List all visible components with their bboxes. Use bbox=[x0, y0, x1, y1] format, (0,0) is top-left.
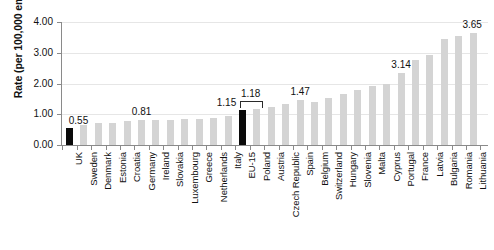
bar-hungary[interactable] bbox=[340, 94, 347, 145]
bar-luxembourg[interactable] bbox=[181, 119, 188, 145]
x-tick-mark bbox=[149, 146, 150, 150]
x-label-malta: Malta bbox=[376, 152, 387, 175]
x-label-germany: Germany bbox=[146, 152, 157, 190]
value-label-spain: 1.47 bbox=[286, 86, 314, 97]
x-label-netherlands: Netherlands bbox=[218, 152, 229, 202]
x-label-austria: Austria bbox=[275, 152, 286, 181]
x-tick-mark bbox=[379, 146, 380, 150]
x-label-czech-republic: Czech Republic bbox=[290, 152, 301, 217]
bar-germany[interactable] bbox=[138, 120, 145, 145]
x-label-bulgaria: Bulgaria bbox=[448, 152, 459, 186]
x-tick-mark bbox=[106, 146, 107, 150]
x-label-luxembourg: Luxembourg bbox=[189, 152, 200, 204]
x-tick-mark bbox=[178, 146, 179, 150]
bar-czech-republic[interactable] bbox=[282, 104, 289, 145]
x-tick-mark bbox=[134, 146, 135, 150]
bar-sweden[interactable] bbox=[80, 125, 87, 145]
x-label-hungary: Hungary bbox=[347, 152, 358, 187]
x-label-portugal: Portugal bbox=[405, 152, 416, 187]
bar-bulgaria[interactable] bbox=[441, 39, 448, 145]
x-tick-mark bbox=[264, 146, 265, 150]
x-tick-mark bbox=[192, 146, 193, 150]
bar-ireland[interactable] bbox=[152, 120, 159, 145]
x-label-poland: Poland bbox=[261, 152, 272, 181]
x-tick-mark bbox=[452, 146, 453, 150]
bar-eu-15[interactable] bbox=[239, 110, 246, 145]
x-tick-mark bbox=[408, 146, 409, 150]
x-label-slovenia: Slovenia bbox=[362, 152, 373, 188]
x-label-belgium: Belgium bbox=[319, 152, 330, 186]
bar-portugal[interactable] bbox=[398, 73, 405, 145]
x-label-lithuania: Lithuania bbox=[477, 152, 488, 190]
bar-malta[interactable] bbox=[369, 86, 376, 145]
x-tick-mark bbox=[423, 146, 424, 150]
bar-austria[interactable] bbox=[268, 107, 275, 145]
value-label-germany: 0.81 bbox=[128, 106, 156, 117]
x-tick-mark bbox=[365, 146, 366, 150]
x-label-eu-15: EU-15 bbox=[246, 152, 257, 178]
x-label-italy: Italy bbox=[232, 152, 243, 169]
x-label-switzerland: Switzerland bbox=[333, 152, 344, 200]
bar-poland[interactable] bbox=[253, 109, 260, 145]
bar-italy[interactable] bbox=[225, 116, 232, 145]
x-label-croatia: Croatia bbox=[131, 152, 142, 182]
bar-netherlands[interactable] bbox=[210, 118, 217, 145]
value-label-lithuania: 3.65 bbox=[458, 19, 486, 30]
value-label-portugal: 3.14 bbox=[387, 59, 415, 70]
x-label-latvia: Latvia bbox=[434, 152, 445, 177]
x-label-spain: Spain bbox=[304, 152, 315, 176]
x-label-estonia: Estonia bbox=[117, 152, 128, 183]
value-label-poland-bracket: 1.18 bbox=[237, 88, 265, 99]
x-tick-mark bbox=[62, 146, 63, 150]
x-label-denmark: Denmark bbox=[102, 152, 113, 190]
x-label-greece: Greece bbox=[203, 152, 214, 183]
x-label-cyprus: Cyprus bbox=[391, 152, 402, 182]
bar-cyprus[interactable] bbox=[383, 84, 390, 145]
bar-france[interactable] bbox=[412, 60, 419, 145]
x-tick-mark bbox=[235, 146, 236, 150]
bar-chart-figure: Rate (per 100,000 employees) 0.001.002.0… bbox=[0, 0, 494, 250]
bar-belgium[interactable] bbox=[311, 102, 318, 145]
bar-slovenia[interactable] bbox=[354, 90, 361, 145]
bar-uk[interactable] bbox=[66, 128, 73, 145]
bar-latvia[interactable] bbox=[426, 55, 433, 145]
x-tick-mark bbox=[120, 146, 121, 150]
bracket-eu15-poland bbox=[240, 101, 262, 108]
x-tick-mark bbox=[437, 146, 438, 150]
x-label-sweden: Sweden bbox=[88, 152, 99, 186]
x-label-romania: Romania bbox=[463, 152, 474, 189]
x-label-slovakia: Slovakia bbox=[174, 152, 185, 187]
x-tick-mark bbox=[336, 146, 337, 150]
x-label-ireland: Ireland bbox=[160, 152, 171, 180]
x-tick-mark bbox=[293, 146, 294, 150]
bar-lithuania[interactable] bbox=[470, 33, 477, 145]
x-label-uk: UK bbox=[73, 152, 84, 165]
x-tick-mark bbox=[279, 146, 280, 150]
bar-denmark[interactable] bbox=[95, 123, 102, 145]
x-tick-mark bbox=[307, 146, 308, 150]
x-tick-mark bbox=[221, 146, 222, 150]
x-tick-mark bbox=[77, 146, 78, 150]
bar-estonia[interactable] bbox=[109, 123, 116, 145]
bar-greece[interactable] bbox=[196, 119, 203, 145]
x-tick-mark bbox=[394, 146, 395, 150]
x-tick-mark bbox=[91, 146, 92, 150]
x-tick-mark bbox=[206, 146, 207, 150]
bar-spain[interactable] bbox=[297, 100, 304, 145]
x-tick-mark bbox=[250, 146, 251, 150]
bar-slovakia[interactable] bbox=[167, 120, 174, 145]
bar-switzerland[interactable] bbox=[325, 98, 332, 145]
bar-croatia[interactable] bbox=[124, 121, 131, 145]
x-tick-mark bbox=[466, 146, 467, 150]
x-tick-mark bbox=[351, 146, 352, 150]
value-label-uk: 0.55 bbox=[64, 115, 92, 126]
x-tick-mark bbox=[480, 146, 481, 150]
x-tick-mark bbox=[322, 146, 323, 150]
x-tick-mark bbox=[163, 146, 164, 150]
x-label-france: France bbox=[419, 152, 430, 181]
bar-romania[interactable] bbox=[455, 36, 462, 145]
